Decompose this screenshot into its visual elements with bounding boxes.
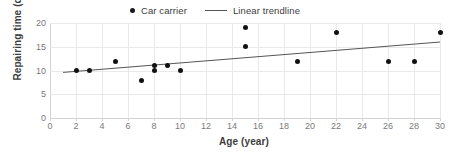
x-tick-mark: [336, 118, 337, 121]
x-tick-label: 0: [38, 121, 62, 131]
x-axis-tick-labels: 024681012141618202224262830: [50, 121, 441, 135]
data-point[interactable]: [87, 68, 92, 73]
x-tick-label: 24: [350, 121, 374, 131]
y-tick-label: 20: [18, 18, 46, 28]
data-point[interactable]: [386, 59, 391, 64]
x-tick-mark: [388, 118, 389, 121]
gridline-vertical: [440, 23, 441, 118]
x-tick-mark: [284, 118, 285, 121]
legend-item-linear-trendline[interactable]: Linear trendline: [205, 5, 300, 16]
data-point[interactable]: [139, 78, 144, 83]
x-axis-line: [50, 118, 441, 119]
x-tick-mark: [206, 118, 207, 121]
x-tick-mark: [154, 118, 155, 121]
data-point[interactable]: [438, 30, 443, 35]
x-tick-mark: [414, 118, 415, 121]
x-tick-mark: [232, 118, 233, 121]
y-tick-label: 15: [18, 42, 46, 52]
linear-trendline: [50, 23, 440, 118]
x-tick-mark: [128, 118, 129, 121]
x-tick-mark: [258, 118, 259, 121]
x-tick-mark: [440, 118, 441, 121]
data-point[interactable]: [334, 30, 339, 35]
data-point[interactable]: [243, 44, 248, 49]
x-tick-label: 18: [272, 121, 296, 131]
plot-area: [50, 23, 440, 118]
x-tick-mark: [180, 118, 181, 121]
data-point[interactable]: [295, 59, 300, 64]
x-tick-mark: [50, 118, 51, 121]
data-point[interactable]: [178, 68, 183, 73]
chart-legend: Car carrier Linear trendline: [130, 2, 390, 18]
x-tick-label: 6: [116, 121, 140, 131]
legend-label-car-carrier: Car carrier: [141, 5, 187, 16]
x-tick-label: 2: [64, 121, 88, 131]
x-axis-title: Age (year): [48, 136, 440, 147]
data-point[interactable]: [243, 25, 248, 30]
y-tick-label: 5: [18, 89, 46, 99]
scatter-chart: Car carrier Linear trendline Repairing t…: [0, 0, 452, 159]
x-tick-label: 16: [246, 121, 270, 131]
x-tick-label: 4: [90, 121, 114, 131]
data-point[interactable]: [152, 68, 157, 73]
data-point[interactable]: [412, 59, 417, 64]
x-tick-mark: [362, 118, 363, 121]
legend-label-linear-trendline: Linear trendline: [233, 5, 300, 16]
x-tick-label: 14: [220, 121, 244, 131]
data-point[interactable]: [74, 68, 79, 73]
x-tick-label: 12: [194, 121, 218, 131]
y-axis-tick-labels: 05101520: [14, 23, 46, 118]
legend-item-car-carrier[interactable]: Car carrier: [130, 5, 187, 16]
legend-dot-marker-icon: [130, 8, 135, 13]
data-point[interactable]: [113, 59, 118, 64]
x-tick-label: 26: [376, 121, 400, 131]
x-tick-mark: [102, 118, 103, 121]
y-tick-label: 10: [18, 66, 46, 76]
x-tick-label: 8: [142, 121, 166, 131]
x-tick-label: 30: [428, 121, 452, 131]
x-tick-mark: [310, 118, 311, 121]
x-tick-label: 28: [402, 121, 426, 131]
x-tick-mark: [76, 118, 77, 121]
x-tick-label: 20: [298, 121, 322, 131]
legend-line-marker-icon: [205, 10, 227, 11]
data-point[interactable]: [165, 63, 170, 68]
x-tick-label: 22: [324, 121, 348, 131]
x-tick-label: 10: [168, 121, 192, 131]
